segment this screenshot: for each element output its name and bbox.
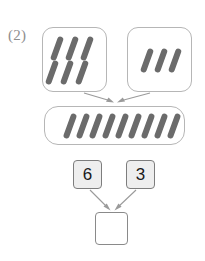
worksheet-problem: (2) xyxy=(0,0,205,261)
tally-stick xyxy=(65,36,79,62)
tally-stick xyxy=(60,60,74,86)
arrow-right-group-to-total xyxy=(117,93,150,103)
tally-stick xyxy=(167,113,181,139)
tally-stick xyxy=(63,113,77,139)
number-card-addend-a[interactable]: 6 xyxy=(73,160,102,189)
number-card-addend-b[interactable]: 3 xyxy=(126,160,155,189)
tally-stick xyxy=(168,48,182,74)
tally-stick xyxy=(140,48,154,74)
tally-stick xyxy=(80,36,94,62)
arrow-left-group-to-total xyxy=(84,93,114,103)
tally-stick xyxy=(50,36,64,62)
tally-stick xyxy=(141,113,155,139)
arrow-card-three-to-answer xyxy=(115,190,137,211)
tally-stick xyxy=(154,113,168,139)
arrow-card-six-to-answer xyxy=(90,190,111,211)
tally-stick xyxy=(102,113,116,139)
tally-stick xyxy=(154,48,168,74)
answer-input-box[interactable] xyxy=(95,212,128,245)
tally-stick xyxy=(76,113,90,139)
tally-stick xyxy=(75,60,89,86)
tally-stick xyxy=(115,113,129,139)
combined-group-box xyxy=(44,106,185,145)
first-group-box xyxy=(42,27,107,92)
problem-number-label: (2) xyxy=(8,28,26,43)
tally-stick xyxy=(89,113,103,139)
second-group-box xyxy=(127,27,192,92)
tally-stick xyxy=(45,60,59,86)
tally-stick xyxy=(128,113,142,139)
